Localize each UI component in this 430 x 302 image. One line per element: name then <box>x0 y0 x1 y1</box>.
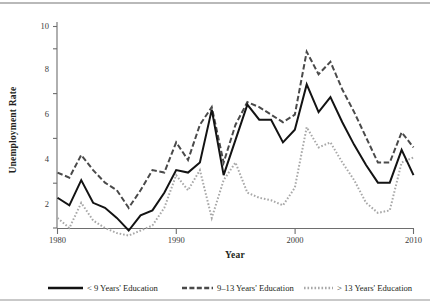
legend-label-lt-9-years: < 9 Years' Education <box>87 283 159 293</box>
legend: < 9 Years' Education 9–13 Years' Educati… <box>48 283 413 293</box>
y-tick-label: 2 <box>45 199 49 209</box>
x-tick-label: 2010 <box>405 235 422 245</box>
x-tick-label: 1990 <box>168 235 185 245</box>
figure-container: Unemployment Rate Year 2 4 6 8 10 <box>0 0 430 302</box>
y-axis-ticks <box>53 27 57 229</box>
y-tick-label: 6 <box>45 109 49 119</box>
y-tick-label: 10 <box>41 21 50 31</box>
x-axis-tick-labels: 1980 1990 2000 2010 <box>49 235 422 245</box>
legend-label-9-13-years: 9–13 Years' Education <box>217 283 294 293</box>
unemployment-rate-line-chart: Unemployment Rate Year 2 4 6 8 10 <box>0 0 430 302</box>
series-line-9-13-years <box>58 52 414 208</box>
y-tick-label: 8 <box>45 64 49 74</box>
x-axis-title: Year <box>225 250 245 260</box>
y-axis-tick-labels: 2 4 6 8 10 <box>41 21 50 208</box>
series-line-gt-13-years <box>58 127 414 235</box>
y-axis-title: Unemployment Rate <box>8 86 18 173</box>
series-line-lt-9-years <box>58 84 414 230</box>
x-tick-label: 1980 <box>49 235 66 245</box>
legend-label-gt-13-years: > 13 Years' Education <box>337 283 413 293</box>
y-tick-label: 4 <box>45 154 50 164</box>
x-tick-label: 2000 <box>287 235 304 245</box>
